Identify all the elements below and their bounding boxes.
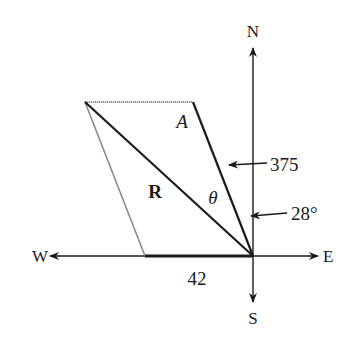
resultant-label: R: [148, 181, 162, 202]
north-label: N: [247, 22, 259, 41]
east-label: E: [323, 247, 333, 266]
magnitude-b-label: 42: [188, 268, 207, 289]
angle-a-label: 28°: [291, 203, 318, 224]
angle-a-pointer: [251, 213, 287, 216]
west-label: W: [32, 247, 49, 266]
south-label: S: [248, 309, 257, 328]
magnitude-a-pointer: [229, 163, 267, 165]
vector-diagram: N S E W A R θ 375 28° 42: [0, 0, 352, 347]
theta-label: θ: [208, 187, 217, 208]
compass-axes: [50, 48, 318, 302]
resultant-vector-line: [85, 102, 253, 256]
vectors: [85, 102, 253, 256]
vector-a-line: [193, 102, 253, 256]
magnitude-a-label: 375: [270, 154, 299, 175]
diagram-svg: N S E W A R θ 375 28° 42: [0, 0, 352, 347]
left-construction-edge: [85, 102, 145, 256]
vector-a-label: A: [174, 111, 188, 132]
